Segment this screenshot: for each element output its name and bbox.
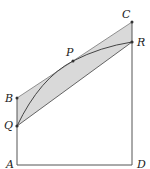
point-r bbox=[130, 40, 133, 43]
label-p: P bbox=[65, 46, 74, 59]
point-b bbox=[16, 97, 19, 100]
label-b: B bbox=[4, 92, 13, 105]
point-p bbox=[72, 60, 75, 63]
segment-qr bbox=[17, 42, 132, 126]
label-r: R bbox=[136, 36, 145, 49]
label-c: C bbox=[122, 8, 131, 21]
label-q: Q bbox=[4, 119, 13, 132]
geometry-diagram: A B Q C R D P bbox=[0, 0, 150, 169]
label-a: A bbox=[5, 158, 14, 169]
label-d: D bbox=[136, 158, 146, 169]
point-c bbox=[131, 21, 134, 24]
shaded-region-bcrq bbox=[17, 22, 132, 126]
point-q bbox=[15, 124, 18, 127]
